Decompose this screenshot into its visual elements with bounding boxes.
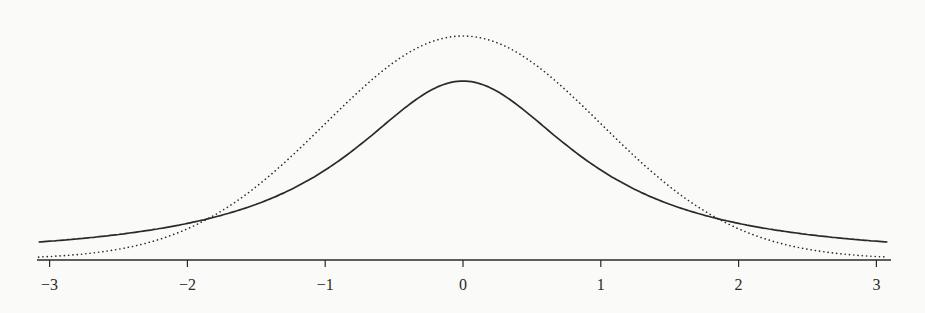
x-tick-label: 0 <box>459 276 467 293</box>
x-tick-label: 3 <box>872 276 880 293</box>
normal-density-curve <box>39 36 888 257</box>
density-comparison-chart: −3−2−10123 <box>0 0 925 313</box>
x-tick-label: 1 <box>597 276 605 293</box>
x-tick-label: −3 <box>41 276 58 293</box>
x-tick-label: −1 <box>317 276 334 293</box>
plot-area <box>39 36 888 257</box>
x-axis: −3−2−10123 <box>37 260 891 293</box>
heavy-tailed-density-curve <box>39 81 888 242</box>
x-tick-label: −2 <box>179 276 196 293</box>
scanned-page: −3−2−10123 <box>0 0 925 313</box>
x-tick-label: 2 <box>735 276 743 293</box>
